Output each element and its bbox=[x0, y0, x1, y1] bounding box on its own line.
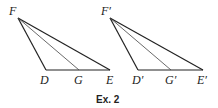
label-E-prime: E′ bbox=[196, 73, 207, 87]
label-G-prime: G′ bbox=[165, 73, 177, 87]
label-G: G bbox=[74, 73, 83, 87]
diagram-canvas: F D G E F′ D′ G′ E′ Ex. 2 bbox=[0, 0, 218, 108]
segment-FG bbox=[18, 18, 79, 70]
label-E: E bbox=[105, 73, 114, 87]
figure-caption: Ex. 2 bbox=[96, 94, 120, 105]
label-D-prime: D′ bbox=[131, 73, 144, 87]
label-D: D bbox=[39, 73, 49, 87]
label-F-prime: F′ bbox=[100, 4, 111, 18]
triangle-left: F D G E bbox=[8, 4, 114, 87]
triangle-right: F′ D′ G′ E′ bbox=[100, 4, 207, 87]
label-F: F bbox=[8, 4, 17, 18]
segment-F'G' bbox=[110, 18, 171, 70]
